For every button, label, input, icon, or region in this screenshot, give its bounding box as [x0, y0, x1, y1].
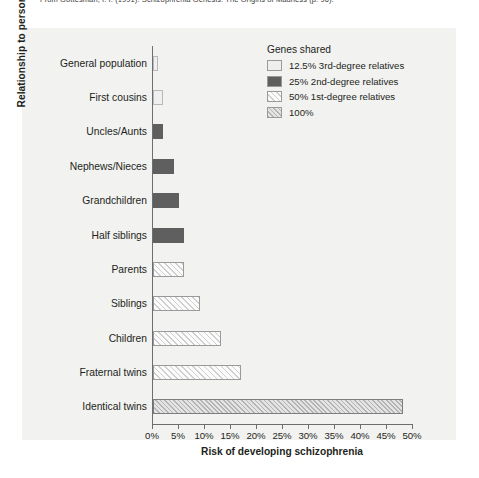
x-tick: [360, 424, 361, 429]
bar: [153, 124, 163, 139]
category-label: First cousins: [89, 92, 147, 103]
bar-row: Siblings: [153, 289, 413, 319]
x-tick-label: 25%: [272, 430, 291, 441]
bar-row: Half siblings: [153, 220, 413, 250]
x-tick: [282, 424, 283, 429]
figure-source-caption: From Gottesman, I. I. (1991). Schizophre…: [40, 0, 334, 5]
bar: [153, 296, 200, 311]
chart-legend: Genes shared 12.5% 3rd-degree relatives2…: [267, 44, 447, 122]
x-tick-label: 20%: [246, 430, 265, 441]
category-label: Children: [109, 333, 147, 344]
x-tick: [334, 424, 335, 429]
x-tick-label: 35%: [324, 430, 343, 441]
legend-items: 12.5% 3rd-degree relatives25% 2nd-degree…: [267, 60, 447, 118]
legend-label: 12.5% 3rd-degree relatives: [289, 60, 404, 71]
category-label: Parents: [112, 264, 148, 275]
bar: [153, 193, 179, 208]
category-label: Nephews/Nieces: [70, 161, 147, 172]
bar-row: Nephews/Nieces: [153, 151, 413, 181]
x-tick-label: 5%: [171, 430, 185, 441]
category-label: General population: [60, 58, 147, 69]
bar: [153, 228, 184, 243]
chart-figure: Relationship to person with schizophreni…: [22, 28, 456, 440]
legend-swatch: [267, 91, 282, 102]
legend-swatch: [267, 60, 282, 71]
legend-item: 100%: [267, 107, 447, 118]
category-label: Identical twins: [82, 401, 147, 412]
bar-row: Parents: [153, 254, 413, 284]
x-tick: [412, 424, 413, 429]
category-label: Fraternal twins: [79, 367, 147, 378]
bar: [153, 399, 403, 414]
bar: [153, 365, 241, 380]
legend-item: 25% 2nd-degree relatives: [267, 76, 447, 87]
x-tick: [152, 424, 153, 429]
bar: [153, 90, 163, 105]
category-label: Grandchildren: [82, 195, 147, 206]
x-tick: [386, 424, 387, 429]
bar: [153, 331, 221, 346]
x-tick: [204, 424, 205, 429]
bar-row: Grandchildren: [153, 186, 413, 216]
y-axis-title: Relationship to person with schizophreni…: [16, 0, 27, 124]
legend-item: 50% 1st-degree relatives: [267, 91, 447, 102]
x-tick-label: 15%: [220, 430, 239, 441]
x-tick-label: 0%: [145, 430, 159, 441]
bar-row: Children: [153, 323, 413, 353]
legend-label: 50% 1st-degree relatives: [289, 91, 395, 102]
legend-label: 25% 2nd-degree relatives: [289, 76, 398, 87]
x-tick: [308, 424, 309, 429]
x-tick-label: 30%: [298, 430, 317, 441]
x-tick: [230, 424, 231, 429]
x-tick: [178, 424, 179, 429]
x-tick: [256, 424, 257, 429]
legend-swatch: [267, 76, 282, 87]
bar: [153, 159, 174, 174]
x-tick-label: 45%: [376, 430, 395, 441]
category-label: Siblings: [111, 298, 147, 309]
legend-label: 100%: [289, 107, 314, 118]
bar: [153, 56, 158, 71]
bar-row: Fraternal twins: [153, 357, 413, 387]
category-label: Uncles/Aunts: [86, 126, 147, 137]
legend-title: Genes shared: [267, 44, 447, 55]
bar: [153, 262, 184, 277]
x-axis-title: Risk of developing schizophrenia: [152, 446, 412, 457]
legend-swatch: [267, 107, 282, 118]
x-tick-label: 50%: [402, 430, 421, 441]
x-tick-label: 10%: [194, 430, 213, 441]
legend-item: 12.5% 3rd-degree relatives: [267, 60, 447, 71]
category-label: Half siblings: [91, 230, 147, 241]
bar-row: Identical twins: [153, 392, 413, 422]
x-tick-label: 40%: [350, 430, 369, 441]
